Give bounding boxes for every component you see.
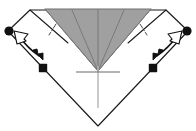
marker-dot-bottom-left bbox=[39, 64, 47, 72]
origami-diagram: An origami diagram showing a downward-po… bbox=[0, 0, 196, 131]
origami-diagram-canvas bbox=[0, 0, 196, 131]
marker-dot-top-right bbox=[182, 26, 191, 35]
marker-dot-top-left bbox=[4, 26, 13, 35]
marker-dot-bottom-right bbox=[149, 64, 157, 72]
